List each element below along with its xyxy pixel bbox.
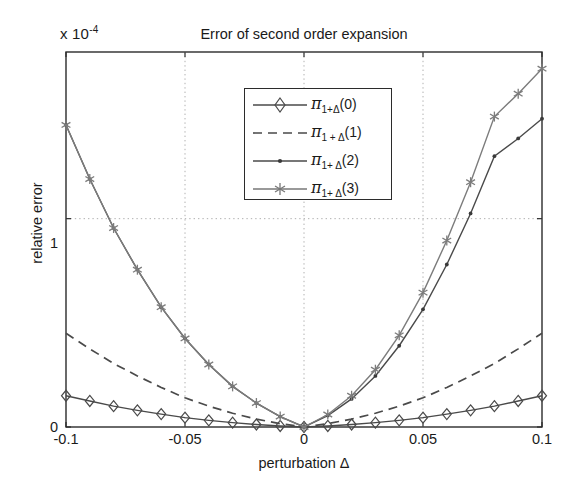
dot-marker: [493, 154, 497, 158]
dot-marker: [397, 344, 401, 348]
dot-marker: [445, 263, 449, 267]
asterisk-marker: [442, 236, 451, 246]
asterisk-marker: [419, 288, 428, 298]
legend-sample-asterisk: [251, 176, 309, 202]
legend: π1+Δ(0) π1 + Δ(1) π1+ Δ(2): [244, 88, 392, 200]
asterisk-marker: [133, 265, 142, 275]
legend-sample-dashed: [251, 120, 309, 146]
dot-marker: [421, 307, 425, 311]
asterisk-marker: [252, 398, 261, 408]
asterisk-marker: [85, 174, 94, 184]
legend-entry-2: π1+ Δ(2): [245, 147, 391, 175]
asterisk-marker: [323, 410, 332, 420]
asterisk-marker: [251, 176, 309, 202]
legend-label-3: π1+ Δ(3): [311, 180, 359, 199]
legend-entry-0: π1+Δ(0): [245, 91, 391, 119]
dashed-line-icon: [251, 120, 309, 146]
asterisk-marker: [276, 412, 285, 422]
diamond-marker: [251, 92, 309, 118]
legend-entry-3: π1+ Δ(3): [245, 175, 391, 203]
legend-label-2: π1+ Δ(2): [311, 152, 359, 171]
legend-sample-dot: [251, 148, 309, 174]
asterisk-marker: [466, 177, 475, 187]
dot-marker: [469, 212, 473, 216]
legend-label-1: π1 + Δ(1): [311, 124, 362, 143]
chart-figure: x 10-4 Error of second order expansion r…: [0, 0, 579, 499]
asterisk-marker: [62, 120, 71, 130]
legend-entry-1: π1 + Δ(1): [245, 119, 391, 147]
legend-sample-diamond: [251, 92, 309, 118]
legend-label-0: π1+Δ(0): [311, 96, 357, 115]
asterisk-marker: [109, 223, 118, 233]
plot-area: [0, 0, 579, 499]
dot-marker: [516, 137, 520, 141]
dot-marker: [251, 148, 309, 174]
dot-marker: [540, 117, 544, 121]
